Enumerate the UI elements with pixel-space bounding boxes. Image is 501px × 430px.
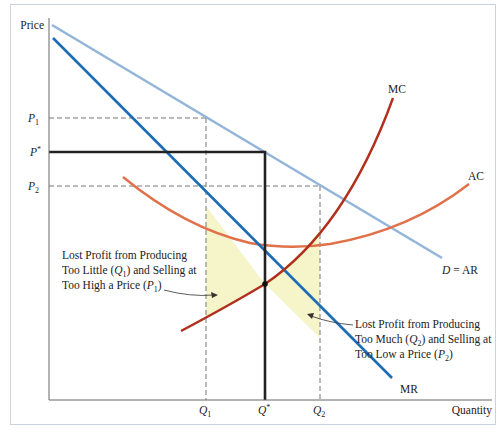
tick-q1: Q1 xyxy=(199,404,211,419)
tick-pstar: P* xyxy=(29,145,41,158)
profit-maximization-diagram: Price Quantity P1 P* P2 Q1 Q* Q2 MC AC M… xyxy=(0,0,501,430)
svg-text:Too Low a Price (P2): Too Low a Price (P2) xyxy=(355,348,453,363)
tick-qstar: Q* xyxy=(258,403,270,416)
svg-text:Too Little (Q1) and Selling at: Too Little (Q1) and Selling at xyxy=(62,264,197,279)
svg-text:Too Much (Q2) and Selling at: Too Much (Q2) and Selling at xyxy=(355,333,492,348)
svg-text:Lost Profit from Producing: Lost Profit from Producing xyxy=(62,249,187,262)
y-axis-label: Price xyxy=(20,19,44,31)
mc-label: MC xyxy=(388,83,406,95)
x-axis-label: Quantity xyxy=(452,404,492,417)
demand-curve xyxy=(52,25,442,258)
mr-curve xyxy=(53,38,392,378)
ac-curve xyxy=(123,177,469,247)
svg-text:Too High a Price (P1): Too High a Price (P1) xyxy=(62,279,162,294)
tick-p2: P2 xyxy=(27,180,39,195)
demand-label: D = AR xyxy=(441,264,478,276)
tick-p1: P1 xyxy=(27,112,39,127)
svg-text:Lost Profit from Producing: Lost Profit from Producing xyxy=(355,318,480,331)
ac-label: AC xyxy=(468,170,484,182)
mr-mc-intersection-point xyxy=(262,281,268,287)
annotation-too-little: Lost Profit from Producing Too Little (Q… xyxy=(62,249,218,298)
tick-q2: Q2 xyxy=(313,404,325,419)
mr-label: MR xyxy=(400,383,418,395)
